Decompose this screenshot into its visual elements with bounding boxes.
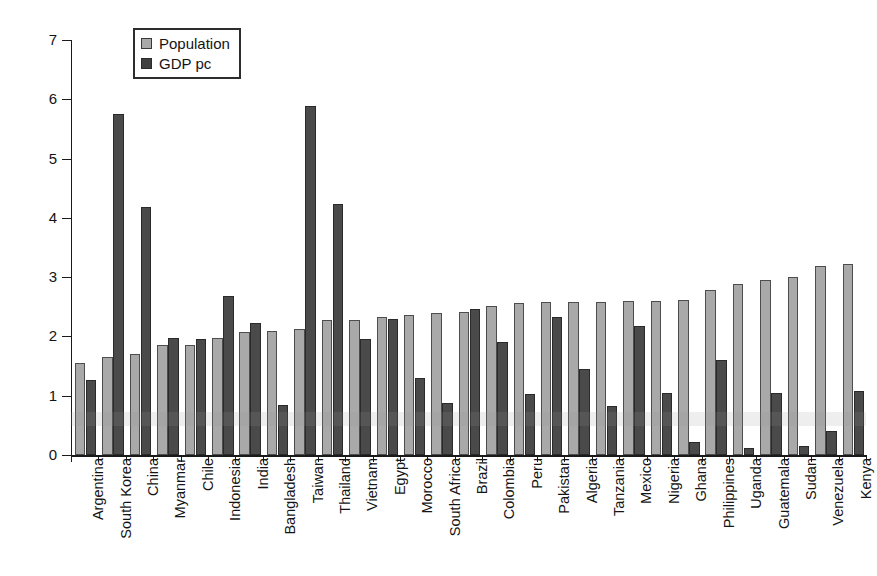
bar-gdp-pc [360,339,371,455]
bar-gdp-pc [826,431,837,455]
x-axis-tick-label: India [256,458,271,489]
bar-gdp-pc [278,405,289,455]
bar-group [514,40,536,455]
x-axis-tick-label: Sudan [804,458,819,500]
bar-group [486,40,508,455]
bar-group [541,40,563,455]
y-axis-tick [62,277,71,278]
bar-population [623,301,634,455]
y-axis-tick [62,159,71,160]
bar-gdp-pc [662,393,673,455]
y-axis-tick-label: 6 [17,91,57,106]
bar-population [130,354,141,455]
x-axis-tick-label: Philippines [722,458,737,528]
bar-group [843,40,865,455]
bar-population [705,290,716,455]
y-axis-tick-label: 5 [17,151,57,166]
x-axis-tick-label: South Africa [448,458,463,536]
x-axis-tick-label: Bangladesh [283,458,298,535]
x-axis-tick-label: Mexico [639,458,654,504]
bar-population [322,320,333,455]
y-axis-tick [62,218,71,219]
x-axis-tick-label: Algeria [585,458,600,503]
bar-gdp-pc [689,442,700,455]
bar-population [75,363,86,455]
y-axis-tick [62,396,71,397]
x-axis-tick-label: Vietnam [365,458,380,511]
x-axis-tick-label: Kenya [859,458,874,499]
bar-population [541,302,552,455]
bar-gdp-pc [579,369,590,455]
x-axis-tick-label: Indonesia [228,458,243,521]
bar-gdp-pc [305,106,316,455]
x-axis-tick-label: Colombia [502,458,517,519]
bar-gdp-pc [525,394,536,455]
gdp-pc-swatch-icon [141,58,152,69]
y-axis-tick-label: 1 [17,388,57,403]
bar-population [486,306,497,455]
bar-group [75,40,97,455]
bar-group [267,40,289,455]
y-axis-tick [62,336,71,337]
bar-group [294,40,316,455]
x-axis-tick-label: Guatemala [777,458,792,529]
bar-population [377,317,388,455]
bar-population [568,302,579,455]
bar-group [733,40,755,455]
x-axis-tick-label: Thailand [338,458,353,514]
bar-gdp-pc [388,319,399,455]
x-axis-tick-label: Chile [201,458,216,491]
bar-group [788,40,810,455]
bar-group [760,40,782,455]
x-axis-tick-label: Pakistan [557,458,572,514]
x-axis-tick-label: Egypt [393,458,408,495]
bar-population [185,345,196,455]
bar-gdp-pc [497,342,508,455]
bar-group [459,40,481,455]
bar-group [705,40,727,455]
bar-population [678,300,689,455]
bar-population [212,338,223,455]
bar-gdp-pc [634,326,645,455]
bar-group [623,40,645,455]
bar-population [459,312,470,455]
bar-group [212,40,234,455]
bar-group [185,40,207,455]
y-axis-tick-label: 4 [17,210,57,225]
x-axis-tick-label: Venezuela [831,458,846,526]
bar-group [568,40,590,455]
x-axis-tick-label: Ghana [694,458,709,502]
bar-group [349,40,371,455]
bar-gdp-pc [415,378,426,455]
bar-population [267,331,278,456]
legend-label-gdp-pc: GDP pc [159,56,211,71]
x-axis-tick-label: China [146,458,161,496]
bar-group [431,40,453,455]
x-axis-tick-label: Morocco [420,458,435,514]
bar-group [404,40,426,455]
bar-gdp-pc [799,446,810,455]
x-axis-tick-labels: ArgentinaSouth KoreaChinaMyanmarChileInd… [71,458,866,573]
x-axis-tick-label: South Korea [119,458,134,539]
bar-population [815,266,826,455]
legend: Population GDP pc [133,28,241,79]
bar-gdp-pc [470,309,481,455]
legend-item-population: Population [141,33,230,53]
bar-population [431,313,442,455]
bar-population [514,303,525,455]
x-axis-tick-label: Tanzania [612,458,627,516]
bar-population [733,284,744,455]
bar-group [596,40,618,455]
bar-gdp-pc [442,403,453,455]
y-axis-tick [62,40,71,41]
bar-group [815,40,837,455]
y-axis-tick-label: 2 [17,328,57,343]
bars-layer [71,40,866,455]
bar-population [157,345,168,455]
y-axis-tick-label: 0 [17,447,57,462]
y-axis-tick-labels: 01234567 [17,40,57,456]
bar-gdp-pc [113,114,124,455]
x-axis-tick-label: Taiwan [311,458,326,503]
y-axis-tick [62,455,71,456]
legend-item-gdp-pc: GDP pc [141,53,230,73]
